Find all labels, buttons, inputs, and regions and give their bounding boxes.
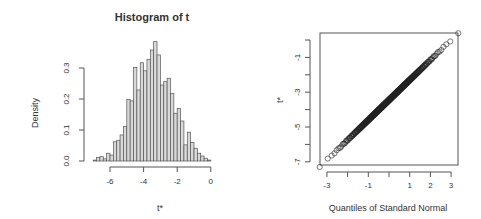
x-tick-label: 0 — [209, 177, 214, 186]
y-tick-label: 0.3 — [62, 62, 71, 74]
y-tick-label: -1 — [293, 53, 302, 61]
y-tick-label: 0.0 — [62, 155, 71, 167]
histogram-x-label: t* — [157, 203, 164, 213]
histogram-y-label: Density — [30, 97, 40, 128]
histogram-bar — [167, 78, 170, 161]
histogram-bar — [117, 140, 120, 161]
x-tick-label: -4 — [140, 177, 148, 186]
histogram-bar — [154, 42, 157, 161]
histogram-bar — [204, 158, 207, 161]
histogram-bar — [191, 142, 194, 161]
histogram-bar — [184, 145, 187, 161]
histogram-bar — [123, 127, 126, 161]
histogram-bar — [113, 142, 116, 161]
x-tick-label: -2 — [174, 177, 182, 186]
y-tick-label: -7 — [293, 158, 302, 166]
histogram-bar — [194, 148, 197, 161]
histogram-bar — [110, 155, 113, 161]
y-tick-label: -5 — [293, 123, 302, 131]
histogram-bar — [164, 82, 167, 161]
histogram-bar — [120, 135, 123, 161]
histogram-bar — [201, 156, 204, 161]
qq-x-axis: -3-1123 — [323, 172, 454, 190]
qq-y-label: t* — [275, 97, 285, 104]
histogram-bar — [157, 55, 160, 161]
qq-y-axis: -1-3-5-7 — [293, 40, 310, 165]
histogram-bar — [97, 158, 100, 161]
histogram-bar — [144, 71, 147, 161]
qq-points — [317, 31, 461, 170]
y-tick-label: 0.1 — [62, 124, 71, 136]
x-tick-label: -6 — [106, 177, 114, 186]
histogram-bar — [177, 108, 180, 161]
histogram-bar — [107, 153, 110, 161]
qq-point — [448, 39, 453, 44]
qq-x-label: Quantiles of Standard Normal — [329, 203, 448, 213]
x-tick-label: 3 — [449, 181, 454, 190]
x-tick-label: 1 — [407, 181, 412, 190]
histogram-bar — [103, 159, 106, 161]
x-tick-label: -3 — [323, 181, 331, 190]
histogram-bar — [174, 113, 177, 161]
histogram-title: Histogram of t — [115, 11, 190, 23]
histogram-panel: Histogram of t 0.00.10.20.3 -6-4-20 Dens… — [30, 11, 214, 213]
histogram-bar — [197, 153, 200, 161]
chart-canvas: Histogram of t 0.00.10.20.3 -6-4-20 Dens… — [0, 0, 481, 219]
y-tick-label: 0.2 — [62, 93, 71, 105]
histogram-bar — [147, 59, 150, 161]
histogram-bar — [100, 157, 103, 161]
x-tick-label: -1 — [365, 181, 373, 190]
histogram-bar — [181, 121, 184, 161]
histogram-y-axis: 0.00.10.20.3 — [62, 62, 84, 167]
histogram-bar — [137, 90, 140, 161]
histogram-bar — [93, 160, 96, 161]
histogram-bar — [134, 67, 137, 161]
histogram-bar — [130, 101, 133, 161]
histogram-bar — [207, 160, 210, 161]
histogram-bar — [140, 63, 143, 161]
histogram-bar — [187, 132, 190, 161]
histogram-bar — [160, 85, 163, 161]
qq-plot-panel: -1-3-5-7 -3-1123 t* Quantiles of Standar… — [275, 31, 461, 213]
x-tick-label: 2 — [428, 181, 433, 190]
histogram-bar — [170, 93, 173, 161]
histogram-x-axis: -6-4-20 — [106, 167, 213, 186]
y-tick-label: -3 — [293, 88, 302, 96]
histogram-bars — [93, 42, 211, 161]
histogram-bar — [127, 99, 130, 161]
histogram-bar — [150, 50, 153, 161]
